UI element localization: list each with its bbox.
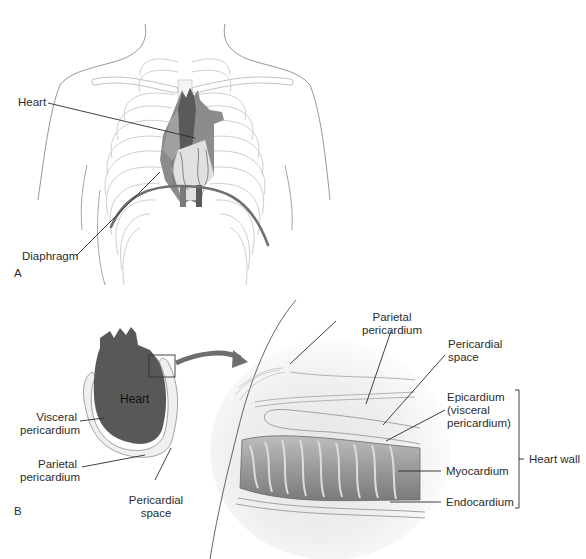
label-visceral-pericardium-left: Visceral pericardium: [20, 411, 77, 437]
label-epicardium: Epicardium (visceral pericardium): [447, 391, 511, 430]
panel-letter-a: A: [14, 267, 22, 279]
label-heart-b: Heart: [120, 392, 149, 406]
panel-letter-b: B: [14, 505, 22, 517]
heart-wall-bracket: [515, 390, 519, 508]
torso-illustration: [38, 24, 330, 285]
label-parietal-pericardium-left: Parietal pericardium: [20, 458, 77, 484]
magnify-arrow-icon: [232, 350, 248, 368]
label-parietal-pericardium-detail: Parietal pericardium: [362, 311, 422, 337]
label-endocardium: Endocardium: [446, 496, 514, 509]
label-heart-wall: Heart wall: [529, 453, 580, 466]
label-pericardial-space-detail: Pericardial space: [448, 338, 502, 364]
label-pericardial-space-left: Pericardial space: [124, 494, 188, 520]
label-heart-a: Heart: [18, 96, 46, 109]
label-diaphragm: Diaphragm: [22, 250, 78, 263]
label-myocardium: Myocardium: [446, 465, 509, 478]
